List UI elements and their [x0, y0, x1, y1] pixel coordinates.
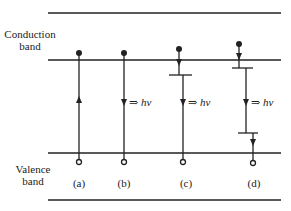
arrow-down-icon — [176, 59, 182, 66]
electron-icon — [121, 50, 127, 56]
electron-icon — [236, 41, 242, 47]
label-line: Conduction — [2, 28, 58, 40]
case-label-c: (c) — [180, 177, 192, 189]
photon-emission-c: ⇒ hν — [188, 96, 210, 109]
emission-arrow-icon: ⇒ — [129, 96, 138, 108]
photon-label: hν — [141, 96, 151, 108]
emission-arrow-icon: ⇒ — [188, 96, 197, 108]
label-line: Valence — [8, 163, 58, 175]
photon-label: hν — [263, 96, 273, 108]
photon-emission-b: ⇒ hν — [129, 96, 151, 109]
hole-icon — [122, 160, 127, 165]
case-label-b: (b) — [118, 177, 131, 189]
electron-icon — [176, 46, 182, 52]
arrow-down-icon — [180, 99, 186, 106]
conduction-band-label: Conduction band — [2, 28, 58, 52]
hole-icon — [77, 160, 82, 165]
arrow-up-icon — [76, 96, 82, 103]
arrow-down-icon — [121, 99, 127, 106]
valence-band-label: Valence band — [8, 163, 58, 187]
arrow-down-icon — [243, 99, 249, 106]
hole-icon — [181, 160, 186, 165]
photon-emission-d: ⇒ hν — [251, 96, 273, 109]
emission-arrow-icon: ⇒ — [251, 96, 260, 108]
electron-icon — [76, 50, 82, 56]
band-diagram: Conduction band Valence band ⇒ hν ⇒ hν ⇒… — [0, 0, 291, 211]
hole-icon — [251, 161, 256, 166]
case-label-d: (d) — [248, 177, 261, 189]
arrow-down-icon — [250, 139, 256, 146]
photon-label: hν — [200, 96, 210, 108]
case-label-a: (a) — [73, 177, 85, 189]
arrow-down-icon — [236, 53, 242, 60]
label-line: band — [8, 175, 58, 187]
label-line: band — [2, 40, 58, 52]
